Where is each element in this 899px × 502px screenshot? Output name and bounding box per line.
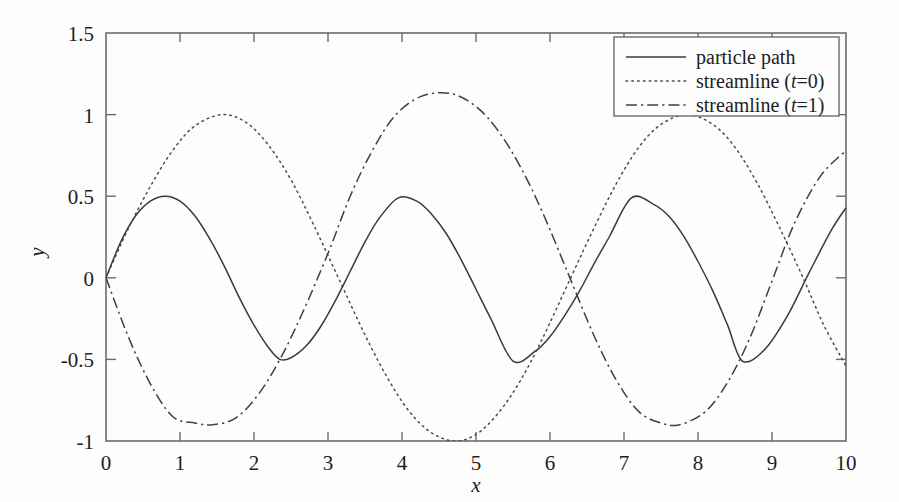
x-tick-label: 9 (767, 451, 778, 475)
x-tick-label: 6 (545, 451, 556, 475)
legend-label: streamline (t=1) (696, 94, 824, 117)
x-tick-label: 1 (175, 451, 186, 475)
x-tick-label: 10 (836, 451, 857, 475)
x-tick-label: 0 (101, 451, 112, 475)
y-axis-title: y (25, 247, 49, 259)
x-tick-labels: 012345678910 (101, 451, 857, 475)
x-axis-title: x (470, 473, 481, 497)
x-tick-label: 5 (471, 451, 482, 475)
x-tick-label: 8 (693, 451, 704, 475)
legend-label: particle path (696, 46, 795, 69)
y-tick-label: 0 (84, 267, 95, 291)
x-tick-label: 2 (249, 451, 260, 475)
series-solid (106, 196, 846, 362)
data-series-group (106, 93, 846, 441)
y-tick-label: 0.5 (68, 185, 94, 209)
series-dashdot (106, 93, 846, 426)
legend: particle pathstreamline (t=0)streamline … (614, 37, 839, 117)
y-tick-label: 1 (84, 104, 95, 128)
chart-canvas: 012345678910 1.510.50-0.5-1 x y particle… (0, 0, 899, 502)
x-tick-label: 4 (397, 451, 408, 475)
x-tick-label: 3 (323, 451, 334, 475)
y-tick-label: -1 (77, 430, 95, 454)
legend-label: streamline (t=0) (696, 70, 824, 93)
series-dotted (106, 115, 846, 441)
y-tick-labels: 1.510.50-0.5-1 (61, 22, 94, 454)
y-tick-label: 1.5 (68, 22, 94, 46)
figure-container: 012345678910 1.510.50-0.5-1 x y particle… (0, 0, 899, 502)
y-tick-label: -0.5 (61, 348, 94, 372)
x-tick-label: 7 (619, 451, 630, 475)
